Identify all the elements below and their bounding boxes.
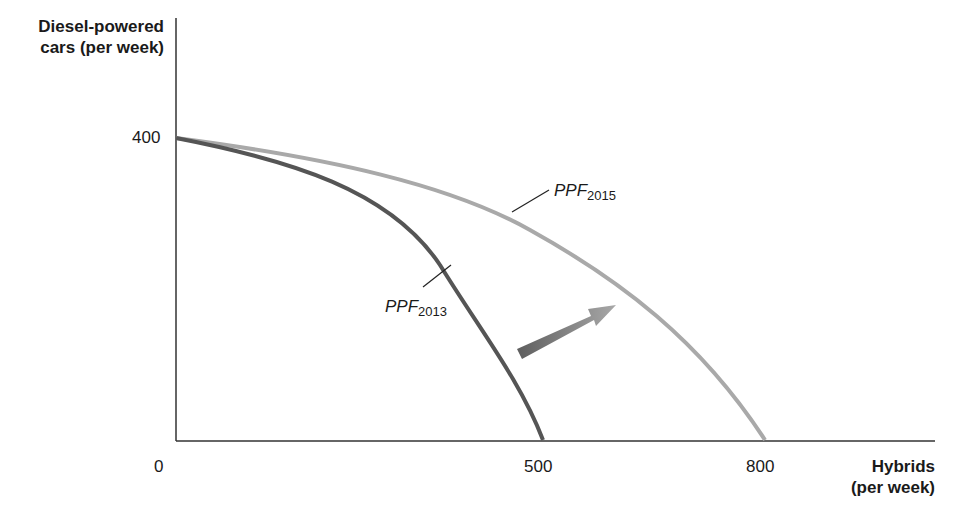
ppf-2013-label: PPF2013	[385, 297, 447, 319]
y-tick-400: 400	[132, 128, 160, 148]
x-axis-title-line1: Hybrids	[800, 456, 935, 477]
x-axis-title: Hybrids (per week)	[800, 456, 935, 498]
x-tick-0: 0	[154, 457, 163, 477]
y-axis-title-line1: Diesel-powered	[14, 16, 164, 37]
ppf-chart	[0, 0, 953, 510]
ppf-2013-label-sub: 2013	[418, 304, 447, 319]
ppf-2015-curve	[176, 138, 765, 440]
ppf-2013-label-main: PPF	[385, 297, 418, 316]
y-axis-title: Diesel-powered cars (per week)	[14, 16, 164, 58]
ppf-2013-curve	[176, 138, 543, 440]
ppf-2015-leader	[512, 190, 549, 212]
y-axis-title-line2: cars (per week)	[14, 37, 164, 58]
x-tick-800: 800	[746, 457, 774, 477]
ppf-2015-label-main: PPF	[554, 181, 587, 200]
ppf-2015-label: PPF2015	[554, 181, 616, 203]
shift-arrow	[517, 305, 616, 359]
x-tick-500: 500	[524, 457, 552, 477]
ppf-2015-label-sub: 2015	[587, 188, 616, 203]
x-axis-title-line2: (per week)	[800, 477, 935, 498]
